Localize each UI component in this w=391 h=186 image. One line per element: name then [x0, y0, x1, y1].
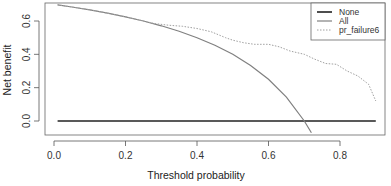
y-axis-title: Net benefit [1, 45, 13, 96]
legend: None All pr_failure6 [311, 3, 385, 40]
y-tick-label: 0.0 [21, 114, 32, 128]
decision-curve-chart: 0.00.20.40.60.8 0.00.20.40.6 Threshold p… [0, 0, 391, 186]
x-tick-label: 0.4 [190, 150, 204, 161]
y-tick-label: 0.4 [21, 47, 32, 61]
x-axis-title: Threshold probability [147, 169, 245, 181]
y-tick-label: 0.6 [21, 14, 32, 28]
y-tick-label: 0.2 [21, 80, 32, 94]
legend-label-pr-failure6: pr_failure6 [339, 25, 379, 35]
x-tick-label: 0.2 [119, 150, 133, 161]
x-tick-label: 0.0 [47, 150, 61, 161]
x-tick-label: 0.6 [262, 150, 276, 161]
x-tick-label: 0.8 [333, 150, 347, 161]
